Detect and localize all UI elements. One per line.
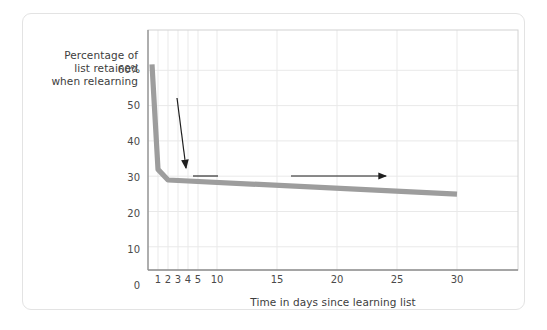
retention-forgetting-curve-chart (0, 0, 547, 330)
plot-background (148, 30, 518, 270)
